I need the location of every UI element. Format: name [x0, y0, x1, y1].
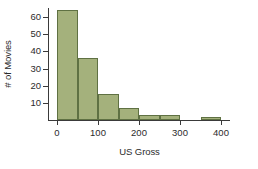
x-tick-label: 200 [124, 127, 154, 138]
y-axis-line [48, 8, 49, 121]
y-tick-label: 10 [17, 97, 41, 108]
y-axis-title: # of Movies [2, 18, 16, 110]
x-tick-label: 0 [42, 127, 72, 138]
y-tick-label: 40 [17, 45, 41, 56]
x-tick-label: 400 [206, 127, 236, 138]
y-tick-label: 30 [17, 63, 41, 74]
y-tick [43, 17, 49, 18]
x-tick-label: 100 [83, 127, 113, 138]
histogram-bar [201, 117, 222, 120]
y-tick [43, 69, 49, 70]
histogram-bar [119, 108, 140, 120]
histogram-chart: 102030405060 0100200300400 # of Movies U… [0, 0, 258, 169]
y-tick [43, 51, 49, 52]
histogram-bar [78, 58, 99, 120]
x-tick [139, 120, 140, 125]
x-axis-title: US Gross [57, 146, 222, 157]
y-tick [43, 103, 49, 104]
x-tick [180, 120, 181, 125]
histogram-bar [57, 10, 78, 120]
y-tick [43, 86, 49, 87]
x-tick-label: 300 [165, 127, 195, 138]
histogram-bar [160, 115, 181, 120]
y-tick [43, 34, 49, 35]
histogram-bar [139, 115, 160, 120]
y-tick-label: 20 [17, 80, 41, 91]
y-tick-label: 60 [17, 11, 41, 22]
y-tick-label: 50 [17, 28, 41, 39]
x-tick [221, 120, 222, 125]
x-tick [57, 120, 58, 125]
x-tick [98, 120, 99, 125]
histogram-bar [98, 94, 119, 120]
plot-area: 102030405060 0100200300400 [0, 0, 258, 169]
